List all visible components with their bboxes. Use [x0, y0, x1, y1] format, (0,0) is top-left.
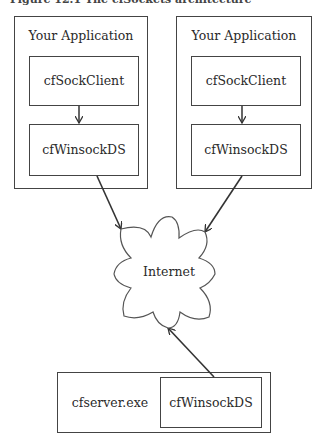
internet-label: Internet [124, 264, 214, 279]
server-to-internet-arrow-icon [168, 328, 214, 377]
right-to-internet-arrow-icon [205, 176, 242, 232]
connections-layer [0, 0, 323, 445]
left-to-internet-arrow-icon [97, 176, 121, 229]
